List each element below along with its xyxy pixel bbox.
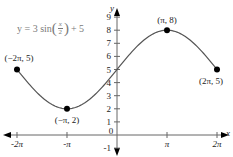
data-point: [14, 67, 20, 73]
left-paren: (: [52, 21, 57, 36]
x-tick-label: π: [165, 139, 170, 149]
y-tick-label: 2: [107, 104, 112, 114]
y-tick-label: 5: [107, 65, 112, 75]
y-axis-down-arrow-icon: [114, 148, 120, 156]
point-label: (−π, 2): [55, 115, 80, 125]
right-paren: ): [64, 21, 69, 36]
point-label: (π, 8): [157, 15, 177, 25]
y-tick-label: 8: [107, 25, 112, 35]
point-label: (2π, 5): [199, 76, 223, 86]
y-axis-up-arrow-icon: [114, 8, 120, 16]
y-tick-label: 6: [107, 51, 112, 61]
y-tick-label: 9: [107, 12, 112, 22]
x-tick-label: -π: [63, 139, 71, 149]
y-tick-label: 7: [107, 38, 112, 48]
equation-label: y = 3 sin ( x 2 ) + 5: [17, 21, 84, 36]
origin-label: 0: [109, 126, 114, 136]
fraction-denominator: 2: [59, 29, 63, 36]
y-tick-label: -1: [104, 143, 112, 153]
equation-suffix: + 5: [71, 23, 84, 34]
x-tick-label: -2π: [11, 139, 23, 149]
equation-prefix: y = 3 sin: [17, 23, 52, 34]
equation-fraction: x 2: [58, 21, 63, 36]
y-tick-label: 1: [107, 117, 112, 127]
point-label: (−2π, 5): [4, 53, 33, 63]
data-point: [164, 27, 170, 33]
x-axis-label: x: [225, 128, 230, 138]
y-tick-label: 3: [107, 91, 112, 101]
x-tick-label: 2π: [212, 139, 222, 149]
data-point: [64, 106, 70, 112]
x-axis-left-arrow-icon: [3, 132, 11, 138]
data-point: [214, 67, 220, 73]
